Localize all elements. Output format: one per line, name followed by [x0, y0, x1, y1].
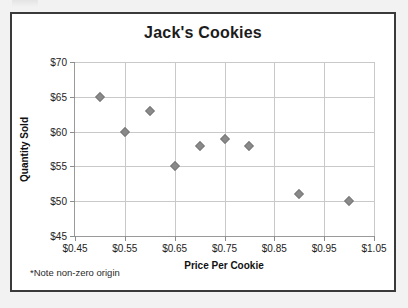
data-point-marker [294, 189, 304, 199]
gridline-vertical [274, 62, 275, 236]
x-axis-tick-label: $0.95 [312, 243, 337, 254]
data-point-marker [220, 134, 230, 144]
gridline-vertical [125, 62, 126, 236]
y-axis-tick [70, 62, 75, 63]
y-axis-tick-label: $45 [50, 231, 67, 242]
gridline-vertical [225, 62, 226, 236]
x-axis-tick-label: $0.55 [112, 243, 137, 254]
y-axis-tick [70, 166, 75, 167]
gridline-vertical [175, 62, 176, 236]
data-point-marker [170, 161, 180, 171]
x-axis-tick [374, 236, 375, 241]
y-axis-tick-label: $60 [50, 126, 67, 137]
x-axis-tick-label: $0.45 [62, 243, 87, 254]
plot-area: $45$50$55$60$65$70$0.45$0.55$0.65$0.75$0… [74, 62, 374, 237]
x-axis-tick-label: $0.65 [162, 243, 187, 254]
y-axis-tick [70, 97, 75, 98]
data-point-marker [195, 141, 205, 151]
y-axis-tick-label: $65 [50, 91, 67, 102]
y-axis-title: Quantity Sold [17, 62, 31, 237]
x-axis-tick [75, 236, 76, 241]
x-axis-tick-label: $1.05 [361, 243, 386, 254]
data-point-marker [95, 92, 105, 102]
x-axis-tick-label: $0.85 [262, 243, 287, 254]
page-edge-artifact [12, 0, 38, 7]
x-axis-tick [175, 236, 176, 241]
gridline-vertical [324, 62, 325, 236]
x-axis-tick [274, 236, 275, 241]
x-axis-tick [225, 236, 226, 241]
data-point-marker [120, 127, 130, 137]
gridline-vertical [374, 62, 375, 236]
x-axis-tick-label: $0.75 [212, 243, 237, 254]
data-point-marker [344, 196, 354, 206]
y-axis-tick-label: $50 [50, 196, 67, 207]
y-axis-tick [70, 201, 75, 202]
chart-card: Jack's Cookies Quantity Sold $45$50$55$6… [10, 12, 396, 292]
y-axis-title-label: Quantity Sold [19, 117, 30, 182]
x-axis-tick [125, 236, 126, 241]
y-axis-tick-label: $70 [50, 57, 67, 68]
x-axis-tick [324, 236, 325, 241]
data-point-marker [244, 141, 254, 151]
footnote: *Note non-zero origin [30, 267, 120, 278]
y-axis-tick-label: $55 [50, 161, 67, 172]
plot-wrap: $45$50$55$60$65$70$0.45$0.55$0.65$0.75$0… [74, 62, 374, 237]
data-point-marker [145, 106, 155, 116]
y-axis-tick [70, 132, 75, 133]
chart-title: Jack's Cookies [12, 24, 394, 42]
